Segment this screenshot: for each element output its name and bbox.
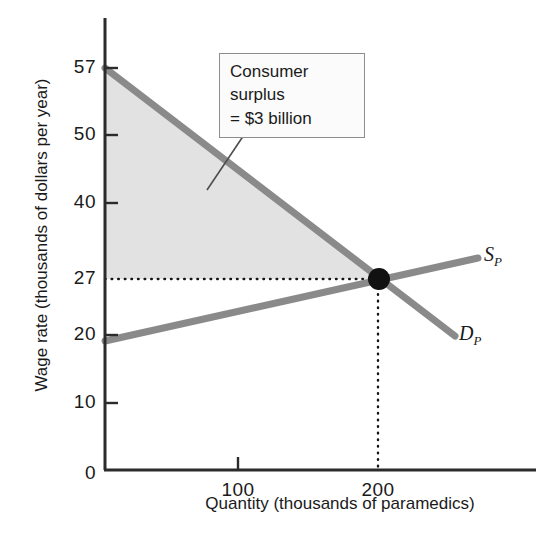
annotation-line-1: Consumer surplus xyxy=(230,60,356,107)
y-tick-label-27: 27 xyxy=(50,267,96,289)
equilibrium-point-marker xyxy=(368,268,390,290)
supply-curve-label: SP xyxy=(484,243,502,270)
y-tick-label-50: 50 xyxy=(50,123,96,145)
x-axis-title: Quantity (thousands of paramedics) xyxy=(150,494,530,514)
y-tick-label-57: 57 xyxy=(50,56,96,78)
y-tick-label-0: 0 xyxy=(50,462,96,484)
y-tick-label-20: 20 xyxy=(50,323,96,345)
y-tick-label-10: 10 xyxy=(50,391,96,413)
y-tick-label-40: 40 xyxy=(50,191,96,213)
demand-label-subscript: P xyxy=(473,333,481,348)
consumer-surplus-annotation: Consumer surplus = $3 billion xyxy=(219,53,365,138)
supply-label-text: S xyxy=(484,243,494,265)
demand-curve-label: DP xyxy=(459,322,481,349)
consumer-surplus-chart: 57 50 40 27 20 10 0 100 200 Wage rate (t… xyxy=(0,0,536,538)
y-axis-title: Wage rate (thousands of dollars per year… xyxy=(32,45,52,425)
demand-label-text: D xyxy=(459,322,473,344)
annotation-line-2: = $3 billion xyxy=(230,107,356,130)
supply-label-subscript: P xyxy=(494,254,502,269)
